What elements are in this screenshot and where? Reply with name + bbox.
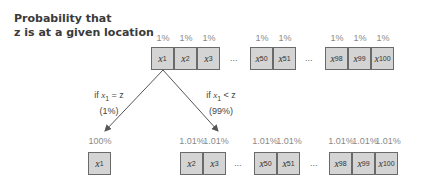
bottom-ellipsis-2: ... <box>310 158 318 168</box>
bottom-cell-x3: x3 <box>203 152 226 175</box>
bottom-cell-x1: x1 <box>88 152 111 175</box>
branch-label-right: if x1 < z (99%) <box>196 89 246 117</box>
bottom-percent: 1.01% <box>201 136 231 146</box>
bottom-left-percent: 100% <box>84 136 116 146</box>
bottom-cell-x50: x50 <box>254 152 277 175</box>
branch-label-left: if x1 = z (1%) <box>84 89 134 117</box>
bottom-cell-x99: x99 <box>352 152 375 175</box>
bottom-cell-x100: x100 <box>375 152 398 175</box>
bottom-cell-x2: x2 <box>180 152 203 175</box>
bottom-cell-x98: x98 <box>329 152 352 175</box>
bottom-cell-x51: x51 <box>277 152 300 175</box>
bottom-percent: 1.01% <box>373 136 403 146</box>
bottom-percent: 1.01% <box>274 136 304 146</box>
bottom-ellipsis-1: ... <box>234 158 242 168</box>
